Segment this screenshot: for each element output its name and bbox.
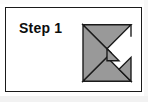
scan-edge-top <box>0 0 148 4</box>
screenshot-root: Step 1 <box>0 0 148 102</box>
tangram-svg <box>74 17 140 89</box>
step-panel: Step 1 <box>5 7 142 92</box>
tangram-body-center-small-triangle <box>107 49 119 61</box>
step-label: Step 1 <box>19 21 62 35</box>
scan-edge-right <box>144 0 148 102</box>
scan-edge-bottom <box>0 96 148 102</box>
tangram-figure <box>74 17 140 89</box>
